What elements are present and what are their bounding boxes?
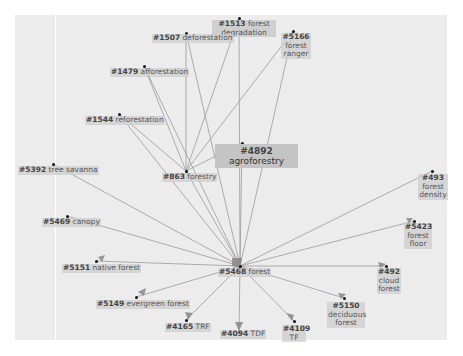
- node-deciduous-forest[interactable]: #5150 deciduous forest: [327, 302, 365, 328]
- node-evergreen-forest[interactable]: #5149 evergreen forest: [96, 300, 190, 309]
- node-native-forest[interactable]: #5151 native forest: [62, 264, 141, 273]
- node-forestry[interactable]: #863 forestry: [162, 173, 217, 182]
- node-reforestation[interactable]: #1544 reforestation: [85, 116, 165, 125]
- node-forest-ranger[interactable]: #5166 forest ranger: [281, 33, 311, 59]
- node-trf[interactable]: #4165 TRF: [165, 323, 211, 332]
- node-afforestation[interactable]: #1479 afforestation: [110, 68, 189, 77]
- node-tf[interactable]: #4109 TF: [282, 325, 306, 342]
- node-forest-density[interactable]: #493 forest density: [418, 174, 448, 200]
- node-tree-savanna[interactable]: #5392 tree savanna: [18, 166, 99, 175]
- node-forest-center[interactable]: #5468 forest: [218, 268, 271, 277]
- node-dot[interactable]: [293, 320, 296, 323]
- node-cloud-forest[interactable]: #492 cloud forest: [377, 268, 401, 294]
- node-tdf[interactable]: #4094 TDF: [220, 330, 266, 339]
- node-dot[interactable]: [343, 297, 346, 300]
- node-forest-floor[interactable]: #5423 forest floor: [404, 223, 432, 249]
- graph-edges: [0, 0, 463, 356]
- node-deforestation[interactable]: #1507 deforestation: [152, 34, 234, 43]
- node-agroforestry[interactable]: #4892 agroforestry: [215, 144, 298, 168]
- node-canopy[interactable]: #5469 canopy: [42, 218, 101, 227]
